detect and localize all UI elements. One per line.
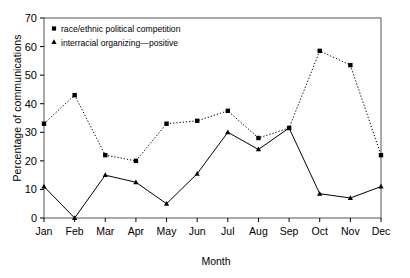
series-race-ethnic-political-competition [42, 49, 383, 163]
y-tick-label: 30 [25, 126, 37, 138]
chart-legend: race/ethnic political competitioninterra… [51, 24, 180, 48]
y-tick-label: 10 [25, 183, 37, 195]
y-tick-label: 60 [25, 41, 37, 53]
x-tick-label: Sep [280, 225, 299, 237]
series-interracial-organizing-positive [41, 125, 383, 220]
plot-frame [44, 18, 381, 218]
legend-label: interracial organizing—positive [61, 38, 178, 48]
x-axis-title-text: Month [201, 255, 230, 267]
square-marker [226, 109, 230, 113]
square-marker [134, 159, 138, 163]
triangle-marker [378, 184, 383, 189]
square-marker [379, 153, 383, 157]
series-line [44, 51, 381, 161]
x-tick-label: Apr [128, 225, 145, 237]
x-axis-title: Month [0, 255, 410, 267]
x-tick-label: May [157, 225, 178, 237]
y-tick-label: 20 [25, 155, 37, 167]
y-tick-label: 40 [25, 98, 37, 110]
x-tick-label: Dec [372, 225, 391, 237]
square-marker [318, 49, 322, 53]
x-tick-label: Jan [36, 225, 53, 237]
x-tick-label: Oct [312, 225, 328, 237]
y-tick-label: 50 [25, 69, 37, 81]
x-axis-ticks: JanFebMarAprMayJunJulAugSepOctNovDec [36, 218, 391, 237]
chart-figure: Percentage of communications Month 01020… [0, 0, 410, 278]
square-marker [195, 119, 199, 123]
legend-label: race/ethnic political competition [61, 24, 181, 34]
triangle-marker [103, 172, 108, 177]
y-axis-title: Percentage of communications [11, 0, 25, 218]
square-marker [164, 122, 168, 126]
x-tick-label: Aug [249, 225, 268, 237]
data-series-layer [41, 49, 383, 220]
series-line [44, 128, 381, 218]
square-marker [52, 26, 56, 30]
triangle-marker [51, 39, 56, 44]
square-marker [348, 63, 352, 67]
x-tick-label: Mar [96, 225, 115, 237]
square-marker [42, 122, 46, 126]
x-tick-label: Feb [66, 225, 84, 237]
square-marker [103, 153, 107, 157]
x-tick-label: Nov [341, 225, 360, 237]
plot-area: 010203040506070 JanFebMarAprMayJunJulAug… [0, 0, 410, 278]
y-axis-ticks: 010203040506070 [25, 12, 44, 224]
triangle-marker [317, 191, 322, 196]
square-marker [256, 136, 260, 140]
square-marker [72, 93, 76, 97]
x-tick-label: Jun [189, 225, 206, 237]
triangle-marker [225, 129, 230, 134]
x-tick-label: Jul [221, 225, 234, 237]
y-tick-label: 70 [25, 12, 37, 24]
triangle-marker [41, 184, 46, 189]
y-tick-label: 0 [31, 212, 37, 224]
